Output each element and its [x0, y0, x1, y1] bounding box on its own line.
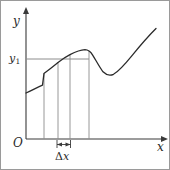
delta-x-bracket-group [57, 140, 71, 148]
delta-variable: x [63, 150, 69, 163]
function-curve [26, 29, 156, 94]
y1-subscript: 1 [16, 57, 21, 66]
delta-x-label: Δx [55, 151, 69, 162]
delta-symbol: Δ [55, 150, 63, 163]
delta-x-left-arrow-icon [57, 142, 62, 146]
axes-group [23, 7, 168, 142]
drop-lines-group [44, 51, 89, 139]
y-axis-arrow-icon [23, 7, 29, 14]
y-axis-label: y [13, 15, 20, 27]
delta-x-right-arrow-icon [66, 142, 71, 146]
y1-value-label: y1 [9, 53, 20, 65]
figure-canvas [1, 1, 170, 170]
curve-group [26, 29, 156, 94]
y1-base-letter: y [9, 52, 15, 65]
figure-container: y y1 O x Δx [0, 0, 170, 170]
origin-label: O [13, 137, 23, 149]
x-axis-label: x [157, 141, 164, 153]
